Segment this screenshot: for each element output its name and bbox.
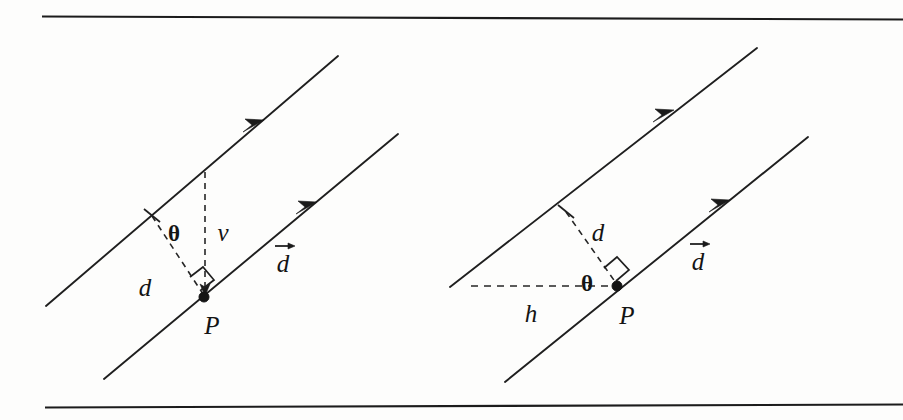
left-point-P-label: P [203,312,219,339]
left-v-label: v [217,219,229,246]
right-direction-vector-group: d [690,241,710,275]
left-upper-line-arrow-icon [243,119,264,132]
geometry-figure: θ v d P d [0,0,903,420]
right-d-label: d [592,219,605,246]
left-panel: θ v d P d [46,56,398,379]
right-h-label: h [525,300,538,327]
left-vector-d-label: d [277,250,290,277]
right-upper-parallel-line [450,48,757,287]
right-lower-parallel-line [505,137,808,382]
top-rule [42,17,903,20]
right-lower-line-arrow-icon [709,199,730,212]
left-lower-line-arrow-icon [296,201,317,214]
right-theta-label: θ [581,271,593,296]
right-perpendicular-tick [558,205,574,218]
left-d-label: d [139,274,152,301]
right-point-P-dot [612,281,622,291]
left-vector-d-arrow-icon [288,243,295,249]
left-lower-parallel-line [104,134,398,379]
left-theta-label: θ [168,221,180,246]
bottom-rule [45,405,903,408]
right-panel: d θ h P d [450,48,808,382]
right-vector-d-arrow-icon [703,241,710,247]
right-vector-d-label: d [692,248,705,275]
figure-root: θ v d P d [0,0,903,420]
right-point-P-label: P [618,302,634,329]
left-point-P-dot [199,292,209,302]
left-direction-vector-group: d [275,243,295,277]
left-upper-parallel-line [46,56,338,306]
right-right-angle-marker [604,257,629,281]
